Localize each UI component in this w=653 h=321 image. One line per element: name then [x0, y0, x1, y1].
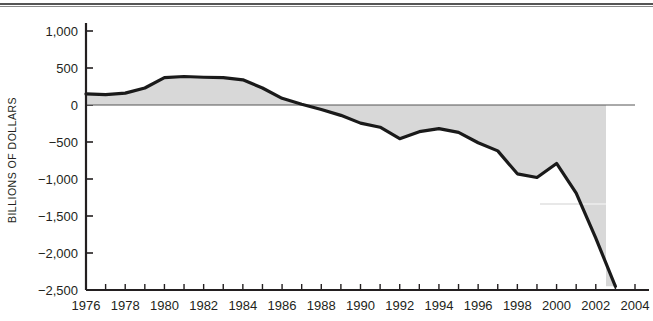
y-axis-tick-label: −2,000 — [38, 246, 78, 261]
x-axis-tick-label: 1980 — [150, 298, 179, 313]
fill-artifact-band — [540, 203, 606, 205]
x-axis-tick-label: 1988 — [307, 298, 336, 313]
y-axis: 1,0005000−500−1,000−1,500−2,000−2,500 — [38, 24, 93, 298]
y-axis-tick-label: 0 — [71, 98, 78, 113]
top-divider-rule-secondary — [0, 6, 653, 7]
y-axis-tick-label: −1,000 — [38, 172, 78, 187]
y-axis-title: BILLIONS OF DOLLARS — [6, 97, 18, 223]
chart-figure: BILLIONS OF DOLLARS 1,0005000−500−1,000−… — [0, 0, 653, 321]
x-axis-tick-label: 1978 — [111, 298, 140, 313]
x-axis-tick-label: 2004 — [621, 298, 650, 313]
area-fill — [86, 77, 615, 287]
x-axis-tick-label: 2000 — [542, 298, 571, 313]
y-axis-tick-label: −1,500 — [38, 209, 78, 224]
y-axis-tick-label: −500 — [49, 135, 78, 150]
y-axis-tick-label: 1,000 — [45, 24, 78, 39]
line-area-chart: BILLIONS OF DOLLARS 1,0005000−500−1,000−… — [0, 0, 653, 321]
x-axis-tick-label: 1996 — [464, 298, 493, 313]
y-axis-title-group: BILLIONS OF DOLLARS — [6, 97, 18, 223]
x-axis: 1976197819801982198419861988199019921994… — [72, 284, 650, 313]
y-axis-tick-label: 500 — [56, 61, 78, 76]
x-axis-tick-label: 2002 — [581, 298, 610, 313]
top-divider-rule — [0, 3, 653, 5]
x-axis-tick-label: 1976 — [72, 298, 101, 313]
x-axis-tick-label: 1984 — [228, 298, 257, 313]
x-axis-tick-label: 1982 — [189, 298, 218, 313]
x-axis-tick-label: 1998 — [503, 298, 532, 313]
x-axis-tick-label: 1986 — [268, 298, 297, 313]
x-axis-tick-label: 1992 — [385, 298, 414, 313]
x-axis-tick-label: 1994 — [424, 298, 453, 313]
y-axis-tick-label: −2,500 — [38, 283, 78, 298]
x-axis-tick-label: 1990 — [346, 298, 375, 313]
